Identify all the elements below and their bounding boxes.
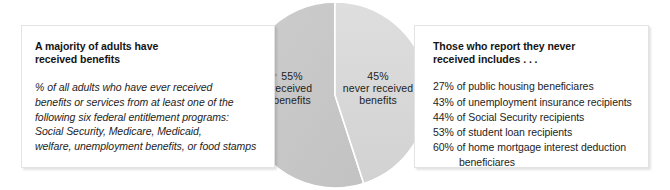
pie-label-never-received: 45% never received benefits <box>331 70 425 107</box>
list-item-text: of home mortgage interest deduction <box>454 141 626 153</box>
never-received-list: 27% of public housing beneficiares 43% o… <box>433 79 640 170</box>
list-item: 53% of student loan recipients <box>433 125 640 140</box>
left-panel-heading-line2: received benefits <box>35 53 120 65</box>
left-panel-body-line-1: % of all adults who have ever received <box>35 80 262 95</box>
list-item-pct: 27% <box>433 80 454 92</box>
right-callout-panel: Those who report they never received inc… <box>414 25 649 168</box>
list-item-text: of Social Security recipients <box>454 111 584 123</box>
list-item-pct: 44% <box>433 111 454 123</box>
list-item: 27% of public housing beneficiares <box>433 79 640 94</box>
pie-label-never-received-pct: 45% <box>331 70 425 82</box>
list-item-pct: 43% <box>433 96 454 108</box>
right-panel-heading-line1: Those who report they never <box>433 40 575 52</box>
right-panel-heading: Those who report they never received inc… <box>433 40 598 66</box>
infographic-canvas: 55% received benefits 45% never received… <box>0 0 670 190</box>
left-panel-body-line-4: Social Security, Medicare, Medicaid, <box>35 124 262 139</box>
left-panel-body-line-2: benefits or services from at least one o… <box>35 95 262 110</box>
list-item-text: of public housing beneficiares <box>454 80 594 92</box>
left-panel-body-line-5: welfare, unemployment benefits, or food … <box>35 139 262 154</box>
pie-label-never-received-line3: benefits <box>331 94 425 106</box>
right-panel-heading-line2: received includes . . . <box>433 53 537 65</box>
list-item-pct: 60% <box>433 141 454 153</box>
left-panel-body: % of all adults who have ever received b… <box>35 80 262 153</box>
list-item: 60% of home mortgage interest deduction <box>433 140 640 155</box>
left-panel-body-line-3: following six federal entitlement progra… <box>35 110 262 125</box>
list-item-continuation-text: beneficiares <box>459 156 515 168</box>
list-item-text: of student loan recipients <box>454 126 572 138</box>
list-item-pct: 53% <box>433 126 454 138</box>
list-item-continuation: beneficiares <box>433 155 640 170</box>
left-panel-heading: A majority of adults have received benef… <box>35 40 205 66</box>
list-item: 44% of Social Security recipients <box>433 110 640 125</box>
left-panel-heading-line1: A majority of adults have <box>35 40 158 52</box>
list-item: 43% of unemployment insurance recipients <box>433 95 640 110</box>
list-item-text: of unemployment insurance recipients <box>454 96 632 108</box>
left-callout-panel: A majority of adults have received benef… <box>21 25 275 168</box>
pie-label-never-received-line2: never received <box>331 82 425 94</box>
